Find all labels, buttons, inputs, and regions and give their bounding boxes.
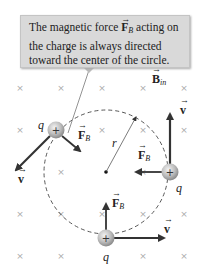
velocity-label-left: v bbox=[18, 172, 24, 187]
field-cross-icon: × bbox=[180, 251, 188, 261]
force-label-left: FB bbox=[78, 128, 90, 143]
field-cross-icon: × bbox=[139, 83, 147, 93]
field-cross-icon: × bbox=[139, 125, 147, 135]
velocity-label-bottom: v bbox=[164, 222, 170, 237]
force-symbol: F bbox=[121, 20, 128, 35]
charge-label-bottom: q bbox=[103, 250, 109, 265]
charge-left: + bbox=[48, 122, 65, 139]
callout-box: The magnetic force FB acting on the char… bbox=[20, 15, 190, 68]
plus-sign: + bbox=[102, 233, 110, 244]
field-cross-icon: × bbox=[57, 167, 65, 177]
field-cross-icon: × bbox=[16, 251, 24, 261]
charge-label-right: q bbox=[176, 181, 182, 196]
force-label-right: FB bbox=[138, 148, 150, 163]
charge-bottom: + bbox=[98, 230, 115, 247]
field-cross-icon: × bbox=[57, 251, 65, 261]
velocity-label-right: v bbox=[180, 103, 186, 118]
field-cross-icon: × bbox=[180, 209, 188, 219]
field-cross-icon: × bbox=[139, 251, 147, 261]
field-cross-icon: × bbox=[180, 83, 188, 93]
force-label-bottom: FB bbox=[112, 196, 124, 211]
plus-sign: + bbox=[166, 167, 174, 178]
radius-arrow bbox=[106, 117, 136, 172]
callout-line-2: the charge is always directed bbox=[29, 39, 183, 54]
radius-label: r bbox=[112, 136, 117, 151]
charge-right: + bbox=[162, 164, 179, 181]
field-cross-icon: × bbox=[57, 83, 65, 93]
field-cross-icon: × bbox=[180, 125, 188, 135]
field-cross-icon: × bbox=[98, 83, 106, 93]
field-cross-icon: × bbox=[98, 125, 106, 135]
field-label: Bin bbox=[152, 72, 166, 87]
callout-line-1: The magnetic force FB acting on bbox=[29, 20, 183, 39]
field-cross-icon: × bbox=[16, 83, 24, 93]
field-cross-icon: × bbox=[98, 209, 106, 219]
plus-sign: + bbox=[52, 125, 60, 136]
charge-label-left: q bbox=[38, 118, 44, 133]
field-cross-icon: × bbox=[16, 125, 24, 135]
field-cross-icon: × bbox=[139, 209, 147, 219]
callout-pointer bbox=[84, 68, 94, 73]
field-cross-icon: × bbox=[16, 209, 24, 219]
